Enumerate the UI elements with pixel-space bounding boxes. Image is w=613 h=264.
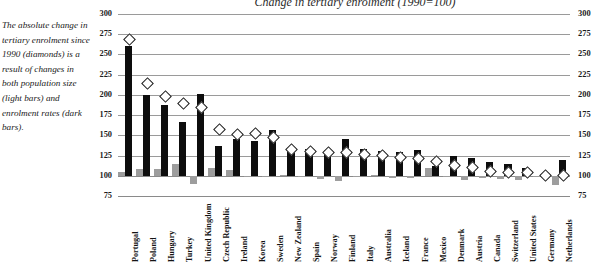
- light-bar: [118, 172, 125, 176]
- light-bar: [515, 176, 522, 180]
- category-label: Ireland: [240, 236, 249, 262]
- diamond-marker: [141, 77, 154, 90]
- y-tick-left-225: 225: [86, 71, 112, 79]
- category-label: Poland: [149, 237, 158, 262]
- light-bar: [443, 176, 450, 178]
- y-tick-right-200: 200: [578, 91, 604, 99]
- plot-area: 7575100100125125150150175175200200225225…: [118, 14, 570, 196]
- light-bar: [172, 164, 179, 175]
- gridline-225: [118, 75, 570, 76]
- dark-bar: [233, 139, 240, 175]
- category-label: Austria: [475, 236, 484, 262]
- light-bar: [552, 176, 559, 186]
- light-bar: [389, 176, 396, 178]
- y-tick-left-75: 75: [86, 192, 112, 200]
- diamond-marker: [249, 128, 262, 141]
- y-tick-right-75: 75: [578, 192, 604, 200]
- y-tick-right-100: 100: [578, 172, 604, 180]
- diamond-marker: [159, 90, 172, 103]
- dark-bar: [179, 122, 186, 175]
- diamond-marker: [503, 166, 516, 179]
- category-label: Sweden: [276, 235, 285, 262]
- y-tick-right-125: 125: [578, 152, 604, 160]
- diamond-marker: [539, 169, 552, 182]
- gridline-200: [118, 95, 570, 96]
- y-tick-left-175: 175: [86, 111, 112, 119]
- category-label: Norway: [330, 234, 339, 262]
- y-tick-left-150: 150: [86, 131, 112, 139]
- light-bar: [136, 169, 143, 175]
- category-label: Canada: [493, 235, 502, 262]
- category-label: Czech Republic: [222, 207, 231, 262]
- category-label: United States: [529, 215, 538, 262]
- dark-bar: [125, 46, 132, 175]
- chart-annotation: The absolute change in tertiary enrolmen…: [2, 18, 90, 135]
- y-tick-right-250: 250: [578, 50, 604, 58]
- light-bar: [226, 170, 233, 176]
- category-labels: PortugalPolandHungaryTurkeyUnited Kingdo…: [118, 200, 570, 264]
- category-label: Spain: [312, 242, 321, 262]
- light-bar: [244, 176, 251, 177]
- category-label: Switzerland: [511, 220, 520, 262]
- light-bar: [425, 168, 432, 176]
- category-label: Italy: [366, 246, 375, 262]
- chart-page: Change in tertiary enrolment (1990=100) …: [0, 0, 613, 264]
- category-label: Turkey: [185, 237, 194, 262]
- category-label: Netherlands: [565, 219, 574, 262]
- category-label: Iceland: [402, 236, 411, 262]
- light-bar: [298, 176, 305, 177]
- y-tick-left-100: 100: [86, 172, 112, 180]
- category-label: Portugal: [131, 232, 140, 262]
- y-tick-left-125: 125: [86, 152, 112, 160]
- light-bar: [262, 176, 269, 178]
- light-bar: [317, 176, 324, 179]
- category-label: United Kingdom: [204, 204, 213, 262]
- y-tick-left-300: 300: [86, 10, 112, 18]
- y-tick-right-275: 275: [578, 30, 604, 38]
- y-tick-right-225: 225: [578, 71, 604, 79]
- diamond-marker: [177, 98, 190, 111]
- light-bar: [335, 176, 342, 182]
- y-tick-left-275: 275: [86, 30, 112, 38]
- gridline-300: [118, 14, 570, 15]
- x-axis-line: [118, 196, 570, 197]
- y-tick-right-150: 150: [578, 131, 604, 139]
- light-bar: [154, 169, 161, 175]
- gridline-250: [118, 54, 570, 55]
- light-bar: [353, 176, 360, 177]
- light-bar: [280, 175, 287, 176]
- category-label: Korea: [258, 240, 267, 262]
- category-label: Mexico: [439, 237, 448, 262]
- dark-bar: [215, 146, 222, 176]
- light-bar: [190, 176, 197, 184]
- light-bar: [497, 176, 504, 179]
- chart-title: Change in tertiary enrolment (1990=100): [120, 0, 590, 9]
- light-bar: [407, 176, 414, 178]
- gridline-175: [118, 115, 570, 116]
- light-bar: [208, 168, 215, 176]
- light-bar: [461, 176, 468, 180]
- light-bar: [371, 175, 378, 176]
- category-label: Australia: [384, 229, 393, 262]
- light-bar: [479, 176, 486, 178]
- category-label: France: [421, 237, 430, 262]
- dark-bar: [143, 95, 150, 176]
- category-label: Germany: [547, 229, 556, 262]
- y-tick-right-175: 175: [578, 111, 604, 119]
- y-tick-left-250: 250: [86, 50, 112, 58]
- diamond-marker: [213, 123, 226, 136]
- gridline-275: [118, 34, 570, 35]
- y-tick-right-300: 300: [578, 10, 604, 18]
- dark-bar: [251, 141, 258, 176]
- dark-bar: [161, 105, 168, 176]
- category-label: Hungary: [167, 231, 176, 262]
- category-label: New Zealand: [294, 216, 303, 262]
- category-label: Denmark: [457, 229, 466, 262]
- category-label: Finland: [348, 235, 357, 262]
- y-tick-left-200: 200: [86, 91, 112, 99]
